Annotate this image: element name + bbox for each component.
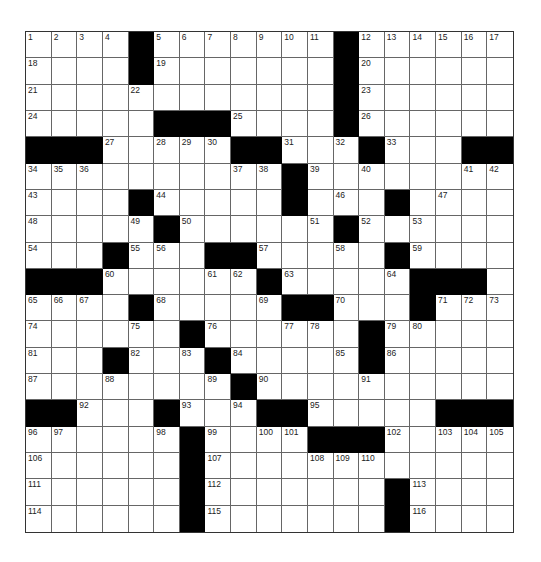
answer-cell[interactable]: 84 [231,348,257,374]
answer-cell[interactable]: 73 [487,295,513,321]
answer-cell[interactable]: 29 [180,137,206,163]
answer-cell[interactable]: 68 [154,295,180,321]
answer-cell[interactable] [205,85,231,111]
answer-cell[interactable] [77,506,103,532]
answer-cell[interactable] [308,348,334,374]
answer-cell[interactable]: 102 [385,427,411,453]
answer-cell[interactable]: 91 [359,374,385,400]
answer-cell[interactable] [154,164,180,190]
answer-cell[interactable] [180,190,206,216]
answer-cell[interactable]: 66 [52,295,78,321]
answer-cell[interactable]: 65 [26,295,52,321]
answer-cell[interactable] [487,58,513,84]
answer-cell[interactable]: 67 [77,295,103,321]
answer-cell[interactable] [487,243,513,269]
answer-cell[interactable]: 10 [282,32,308,58]
answer-cell[interactable] [103,479,129,505]
answer-cell[interactable] [77,85,103,111]
answer-cell[interactable] [180,374,206,400]
answer-cell[interactable] [231,190,257,216]
answer-cell[interactable] [231,427,257,453]
answer-cell[interactable] [334,321,360,347]
answer-cell[interactable] [359,190,385,216]
answer-cell[interactable] [436,243,462,269]
answer-cell[interactable] [77,58,103,84]
answer-cell[interactable]: 31 [282,137,308,163]
answer-cell[interactable] [257,453,283,479]
answer-cell[interactable]: 111 [26,479,52,505]
answer-cell[interactable]: 34 [26,164,52,190]
answer-cell[interactable]: 21 [26,85,52,111]
answer-cell[interactable] [129,269,155,295]
answer-cell[interactable] [154,506,180,532]
answer-cell[interactable]: 2 [52,32,78,58]
answer-cell[interactable] [282,374,308,400]
answer-cell[interactable] [410,137,436,163]
answer-cell[interactable] [462,58,488,84]
answer-cell[interactable]: 75 [129,321,155,347]
answer-cell[interactable] [231,453,257,479]
answer-cell[interactable] [334,269,360,295]
answer-cell[interactable]: 74 [26,321,52,347]
answer-cell[interactable] [52,85,78,111]
answer-cell[interactable]: 28 [154,137,180,163]
answer-cell[interactable] [103,190,129,216]
answer-cell[interactable] [154,374,180,400]
answer-cell[interactable] [77,479,103,505]
answer-cell[interactable] [103,427,129,453]
answer-cell[interactable] [385,58,411,84]
answer-cell[interactable] [385,164,411,190]
answer-cell[interactable]: 90 [257,374,283,400]
answer-cell[interactable]: 3 [77,32,103,58]
answer-cell[interactable]: 47 [436,190,462,216]
answer-cell[interactable] [436,137,462,163]
answer-cell[interactable]: 42 [487,164,513,190]
answer-cell[interactable] [282,348,308,374]
answer-cell[interactable] [257,85,283,111]
answer-cell[interactable] [487,269,513,295]
answer-cell[interactable] [436,453,462,479]
answer-cell[interactable] [334,400,360,426]
answer-cell[interactable] [129,374,155,400]
answer-cell[interactable] [359,400,385,426]
answer-cell[interactable] [231,85,257,111]
answer-cell[interactable] [52,58,78,84]
answer-cell[interactable]: 41 [462,164,488,190]
answer-cell[interactable]: 20 [359,58,385,84]
answer-cell[interactable]: 60 [103,269,129,295]
answer-cell[interactable] [231,58,257,84]
answer-cell[interactable] [385,216,411,242]
answer-cell[interactable] [103,321,129,347]
answer-cell[interactable]: 76 [205,321,231,347]
answer-cell[interactable] [103,216,129,242]
answer-cell[interactable] [77,453,103,479]
answer-cell[interactable] [308,243,334,269]
answer-cell[interactable] [52,348,78,374]
answer-cell[interactable] [282,111,308,137]
answer-cell[interactable] [205,216,231,242]
answer-cell[interactable]: 95 [308,400,334,426]
answer-cell[interactable] [487,348,513,374]
answer-cell[interactable]: 56 [154,243,180,269]
answer-cell[interactable] [462,506,488,532]
answer-cell[interactable] [129,400,155,426]
answer-cell[interactable] [154,85,180,111]
answer-cell[interactable] [180,58,206,84]
answer-cell[interactable]: 82 [129,348,155,374]
answer-cell[interactable]: 112 [205,479,231,505]
answer-cell[interactable] [462,243,488,269]
answer-cell[interactable] [487,374,513,400]
answer-cell[interactable]: 39 [308,164,334,190]
answer-cell[interactable] [462,111,488,137]
answer-cell[interactable]: 98 [154,427,180,453]
answer-cell[interactable] [359,295,385,321]
answer-cell[interactable] [180,243,206,269]
answer-cell[interactable] [487,190,513,216]
answer-cell[interactable]: 99 [205,427,231,453]
answer-cell[interactable]: 116 [410,506,436,532]
answer-cell[interactable] [205,164,231,190]
answer-cell[interactable]: 109 [334,453,360,479]
answer-cell[interactable] [282,506,308,532]
answer-cell[interactable] [77,374,103,400]
answer-cell[interactable]: 89 [205,374,231,400]
